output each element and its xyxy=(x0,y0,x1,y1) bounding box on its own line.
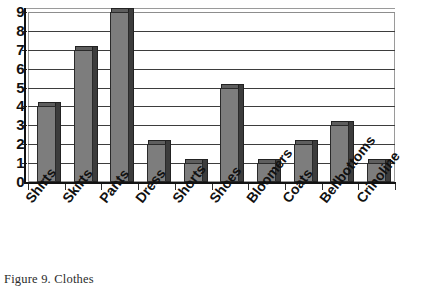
bar-skirts xyxy=(74,50,93,182)
y-tick-label-9: 9 xyxy=(2,4,24,19)
y-tick-label-3: 3 xyxy=(2,117,24,132)
y-axis-tick-labels: 0123456789 xyxy=(0,0,24,190)
figure-caption: Figure 9. Clothes xyxy=(4,272,94,287)
gridline-8 xyxy=(28,31,395,32)
y-tick-label-1: 1 xyxy=(2,155,24,170)
y-tick-label-2: 2 xyxy=(2,136,24,151)
x-tick-10 xyxy=(395,184,396,190)
y-tick-label-5: 5 xyxy=(2,80,24,95)
y-axis-line xyxy=(24,8,26,184)
plot-depth-top-edge xyxy=(24,8,395,9)
y-tick-label-8: 8 xyxy=(2,23,24,38)
gridline-9 xyxy=(28,12,395,13)
y-tick-label-6: 6 xyxy=(2,61,24,76)
bar-chart: 0123456789 ShirtsSkirtsPantsDressShortsS… xyxy=(0,0,442,200)
figure: 0123456789 ShirtsSkirtsPantsDressShortsS… xyxy=(0,0,442,297)
y-tick-label-4: 4 xyxy=(2,98,24,113)
y-tick-label-0: 0 xyxy=(2,174,24,189)
y-tick-label-7: 7 xyxy=(2,42,24,57)
bar-pants xyxy=(110,12,129,182)
